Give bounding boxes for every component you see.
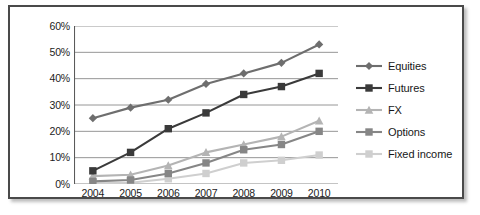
data-point [240, 146, 247, 153]
legend-marker-square-icon [356, 125, 382, 139]
data-point [165, 125, 172, 132]
data-point [240, 69, 248, 77]
data-point [315, 128, 322, 135]
legend-marker-square-icon [356, 81, 382, 95]
chart-legend: EquitiesFuturesFXOptionsFixed income [356, 55, 464, 165]
legend-label: Fixed income [388, 148, 452, 160]
data-point [89, 167, 96, 174]
chart-plot-svg [74, 26, 338, 184]
legend-label: Options [388, 126, 425, 138]
legend-marker [365, 62, 373, 70]
y-tick-label: 30% [26, 100, 70, 111]
data-point [278, 83, 285, 90]
legend-item-fixed-income[interactable]: Fixed income [356, 143, 464, 165]
legend-marker-square-icon [356, 147, 382, 161]
legend-item-options[interactable]: Options [356, 121, 464, 143]
data-point [164, 96, 172, 104]
y-tick-label: 40% [26, 73, 70, 84]
data-point [165, 170, 172, 177]
data-point [315, 117, 324, 125]
data-point [315, 40, 323, 48]
data-point [89, 178, 96, 184]
data-point [315, 70, 322, 77]
legend-label: Equities [388, 60, 426, 72]
data-point [202, 159, 209, 166]
data-point [89, 114, 97, 122]
data-point [202, 109, 209, 116]
legend-marker [365, 128, 372, 135]
data-point [278, 157, 285, 164]
legend-marker [365, 84, 372, 91]
data-point [202, 80, 210, 88]
legend-marker-triangle-icon [356, 103, 382, 117]
chart-card: 60%50%40%30%20%10%0% 2004200520062007200… [8, 5, 464, 199]
y-tick-label: 20% [26, 126, 70, 137]
legend-item-futures[interactable]: Futures [356, 77, 464, 99]
y-axis: 60%50%40%30%20%10%0% [20, 26, 70, 184]
plot-area [74, 26, 338, 184]
data-point [127, 176, 134, 183]
legend-marker-diamond-icon [356, 59, 382, 73]
legend-marker [365, 150, 372, 157]
y-tick-label: 0% [26, 179, 70, 190]
data-point [127, 149, 134, 156]
data-point [278, 141, 285, 148]
y-tick-label: 50% [26, 47, 70, 58]
data-point [277, 59, 285, 67]
data-point [240, 91, 247, 98]
data-point [315, 151, 322, 158]
legend-label: FX [388, 104, 402, 116]
y-tick-label: 60% [26, 21, 70, 32]
x-tick-label: 2010 [297, 188, 341, 199]
legend-item-fx[interactable]: FX [356, 99, 464, 121]
legend-item-equities[interactable]: Equities [356, 55, 464, 77]
legend-label: Futures [388, 82, 425, 94]
y-tick-label: 10% [26, 152, 70, 163]
x-axis: 2004200520062007200820092010 [74, 188, 344, 204]
data-point [240, 159, 247, 166]
data-point [202, 170, 209, 177]
